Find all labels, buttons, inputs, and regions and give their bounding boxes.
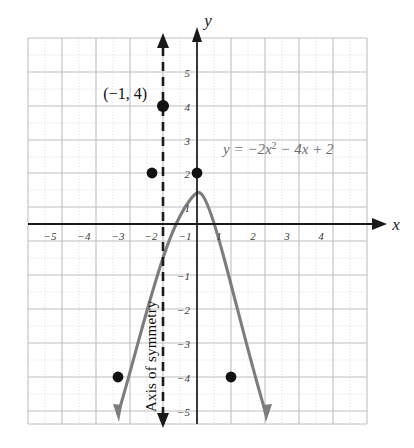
point-neg3-neg4	[113, 372, 124, 383]
y-axis-label: y	[202, 11, 212, 30]
svg-text:y = −2x2 − 4x + 2: y = −2x2 − 4x + 2	[221, 140, 334, 158]
x-tick-label: 1	[216, 230, 222, 242]
point-vertex	[157, 100, 169, 112]
y-axis-arrow	[192, 27, 202, 42]
parabola-graph-svg: −5 −4 −3 −2 −1 1 2 3 4 5 4 3 2 1 −1 −2 −…	[0, 0, 414, 448]
y-tick-label: −2	[177, 304, 190, 316]
x-tick-label: −2	[145, 230, 158, 242]
equation-mid: − 4	[277, 141, 303, 157]
equation-label: y = −2x2 − 4x + 2	[221, 140, 334, 158]
x-axis-arrow	[372, 218, 387, 230]
x-axis-label: x	[391, 215, 400, 234]
axis-of-symmetry-label: Axis of symmetry	[143, 300, 159, 412]
y-tick-label: −5	[177, 406, 190, 418]
x-tick-label: 2	[250, 230, 256, 242]
point-neg2-2	[147, 168, 158, 179]
y-tick-label: 1	[185, 202, 191, 214]
x-tick-label: −1	[179, 230, 192, 242]
y-tick-label: 3	[184, 135, 191, 147]
y-tick-label: −3	[177, 338, 190, 350]
y-tick-label: 4	[185, 101, 191, 113]
x-tick-label: −4	[78, 230, 91, 242]
equation-tail: + 2	[308, 141, 334, 157]
y-tick-label: −4	[177, 372, 190, 384]
point-1-neg4	[226, 372, 237, 383]
x-tick-label: −3	[112, 230, 125, 242]
x-tick-label: 3	[283, 230, 290, 242]
vertex-label: (−1, 4)	[103, 85, 147, 103]
equation-lhs: y = −2	[221, 141, 265, 157]
point-0-2	[192, 168, 203, 179]
y-tick-label: 5	[185, 67, 191, 79]
y-tick-label: 2	[185, 168, 191, 180]
graph-figure: −5 −4 −3 −2 −1 1 2 3 4 5 4 3 2 1 −1 −2 −…	[0, 0, 414, 448]
x-tick-label: −5	[44, 230, 57, 242]
y-tick-label: −1	[177, 270, 190, 282]
x-tick-label: 4	[318, 230, 324, 242]
